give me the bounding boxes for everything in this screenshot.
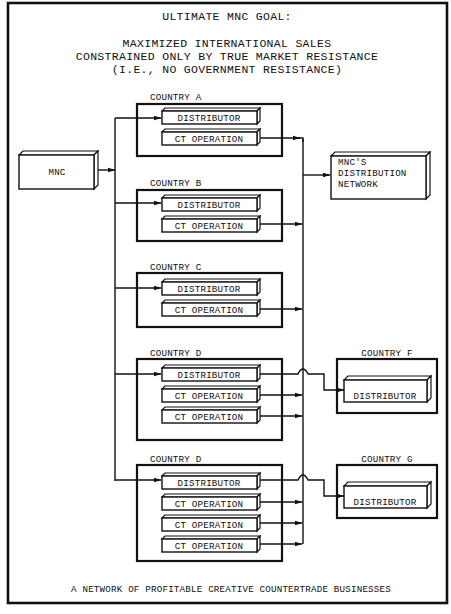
country-label: COUNTRY G [361, 454, 412, 465]
unit-label: CT OPERATION [175, 541, 244, 552]
unit-label: DISTRIBUTOR [354, 497, 417, 508]
header: ULTIMATE MNC GOAL: MAXIMIZED INTERNATION… [76, 10, 378, 76]
country-label: COUNTRY F [361, 348, 412, 359]
goal-line-2: CONSTRAINED ONLY BY TRUE MARKET RESISTAN… [76, 50, 378, 63]
country-label: COUNTRY C [150, 262, 202, 273]
footer-caption: A NETWORK OF PROFITABLE CREATIVE COUNTER… [71, 584, 391, 595]
country-d-second: COUNTRY D DISTRIBUTOR CT OPERATION CT OP… [137, 454, 282, 561]
country-label: COUNTRY D [150, 348, 202, 359]
country-b: COUNTRY B DISTRIBUTOR CT OPERATION [137, 178, 282, 241]
unit-label: CT OPERATION [175, 412, 244, 423]
country-f: COUNTRY F DISTRIBUTOR [337, 348, 437, 413]
d1-distributor-to-f-connector [260, 369, 344, 390]
unit-label: CT OPERATION [175, 499, 244, 510]
destination-line-2: DISTRIBUTION [338, 168, 407, 179]
d2-distributor-to-g-connector [260, 475, 344, 496]
country-label: COUNTRY A [150, 92, 202, 103]
destination-line-3: NETWORK [338, 179, 378, 190]
country-d-first: COUNTRY D DISTRIBUTOR CT OPERATION CT OP… [137, 348, 282, 440]
goal-line-1: MAXIMIZED INTERNATIONAL SALES [123, 37, 332, 50]
unit-label: DISTRIBUTOR [178, 284, 241, 295]
country-a: COUNTRY A DISTRIBUTOR CT OPERATION [137, 92, 282, 156]
a-ct-corner [297, 138, 303, 142]
unit-label: DISTRIBUTOR [354, 391, 417, 402]
header-title: ULTIMATE MNC GOAL: [162, 10, 292, 23]
unit-label: DISTRIBUTOR [178, 478, 241, 489]
countertrade-network-diagram: ULTIMATE MNC GOAL: MAXIMIZED INTERNATION… [0, 0, 451, 614]
unit-label: DISTRIBUTOR [178, 113, 241, 124]
country-label: COUNTRY D [150, 454, 202, 465]
country-c: COUNTRY C DISTRIBUTOR CT OPERATION [137, 262, 282, 327]
unit-label: CT OPERATION [175, 221, 244, 232]
unit-label: CT OPERATION [175, 391, 244, 402]
unit-label: CT OPERATION [175, 134, 244, 145]
unit-label: CT OPERATION [175, 305, 244, 316]
country-label: COUNTRY B [150, 178, 202, 189]
mnc-label: MNC [48, 167, 65, 178]
mnc-distribution-network-box: MNC'S DISTRIBUTION NETWORK [331, 152, 430, 199]
destination-line-1: MNC'S [338, 157, 367, 168]
country-g: COUNTRY G DISTRIBUTOR [337, 454, 437, 518]
mnc-source-box: MNC [19, 151, 98, 189]
unit-label: DISTRIBUTOR [178, 200, 241, 211]
unit-label: CT OPERATION [175, 520, 244, 531]
unit-label: DISTRIBUTOR [178, 370, 241, 381]
goal-line-3: (I.E., NO GOVERNMENT RESISTANCE) [112, 63, 342, 76]
